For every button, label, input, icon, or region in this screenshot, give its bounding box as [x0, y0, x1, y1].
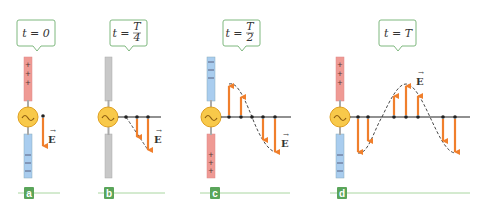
ac-source-icon	[18, 107, 38, 127]
time-label: t = 0	[22, 27, 50, 40]
svg-text:b: b	[106, 188, 112, 199]
time-callout: t = T 4	[110, 20, 147, 51]
negative-rod	[207, 57, 215, 101]
svg-text:E: E	[154, 134, 162, 145]
svg-text:→: →	[156, 127, 162, 135]
panel-c: t = T 2 + + + E → c	[200, 20, 291, 199]
svg-text:t =: t =	[112, 27, 129, 40]
antenna-diagram: t = 0 + + + E → a t = T 4	[0, 0, 493, 209]
svg-text:+: +	[337, 78, 342, 88]
time-callout: t = T 2	[223, 20, 260, 51]
ac-source-icon	[330, 107, 350, 127]
svg-text:t = T: t = T	[384, 27, 414, 40]
ac-source-icon	[201, 107, 221, 127]
neutral-rod	[105, 57, 112, 101]
svg-text:a: a	[26, 188, 32, 199]
svg-text:c: c	[212, 188, 218, 199]
svg-text:→: →	[418, 69, 424, 77]
time-callout: t = 0	[17, 20, 55, 51]
e-field-label: E	[48, 134, 56, 145]
svg-text:+: +	[25, 78, 30, 88]
svg-text:t =: t =	[225, 27, 242, 40]
svg-text:E: E	[416, 76, 424, 87]
svg-text:→: →	[50, 127, 56, 135]
svg-text:2: 2	[246, 31, 254, 44]
svg-text:+: +	[208, 166, 213, 176]
svg-text:E: E	[281, 138, 289, 149]
neutral-rod	[105, 134, 112, 178]
panel-d: t = T + + + E → d	[330, 20, 470, 199]
svg-text:4: 4	[133, 31, 141, 44]
panel-b: t = T 4 E → b	[98, 20, 165, 199]
svg-text:d: d	[339, 188, 345, 199]
ac-source-icon	[98, 107, 118, 127]
time-callout: t = T	[379, 20, 416, 51]
svg-text:→: →	[283, 131, 289, 139]
panel-a: t = 0 + + + E → a	[17, 20, 60, 199]
